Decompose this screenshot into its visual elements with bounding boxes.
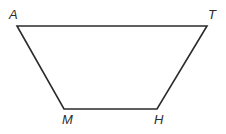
- vertex-label-t: T: [208, 8, 216, 21]
- vertex-label-h: H: [154, 113, 163, 126]
- trapezoid-svg: [0, 0, 226, 134]
- vertex-label-a: A: [9, 8, 18, 21]
- vertex-label-m: M: [62, 113, 73, 126]
- trapezoid-outline: [17, 26, 207, 109]
- geometry-figure-trapezoid: A T H M: [0, 0, 226, 134]
